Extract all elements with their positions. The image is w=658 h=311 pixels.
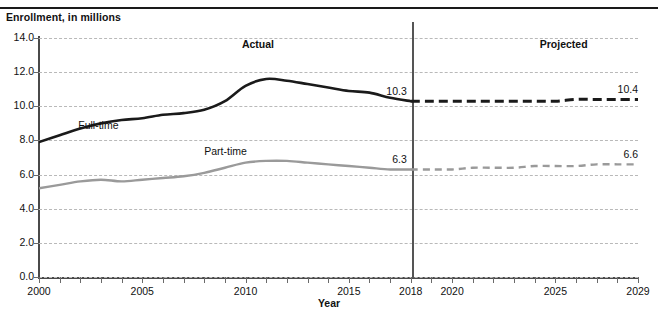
x-axis-tick bbox=[101, 277, 102, 283]
x-axis-title: Year bbox=[0, 297, 658, 309]
line-part-time-projected bbox=[411, 164, 638, 169]
x-axis-tick bbox=[163, 277, 164, 283]
x-axis-tick bbox=[308, 277, 309, 283]
y-axis-tick-label: 2.0 bbox=[19, 236, 34, 248]
gridline bbox=[39, 277, 638, 278]
x-axis-tick bbox=[225, 277, 226, 283]
x-axis-tick-label: 2018 bbox=[399, 285, 422, 297]
x-axis-tick-label: 2029 bbox=[626, 285, 649, 297]
x-axis-tick bbox=[514, 277, 515, 283]
series-label-full-time: Full-time bbox=[78, 119, 118, 131]
x-axis-tick bbox=[390, 277, 391, 283]
series-label-part-time: Part-time bbox=[204, 145, 247, 157]
y-axis-tick-label: 12.0 bbox=[14, 65, 34, 77]
annotation-parttime-2018: 6.3 bbox=[392, 153, 407, 165]
x-axis-tick-label: 2020 bbox=[440, 285, 463, 297]
x-axis-tick bbox=[184, 277, 185, 283]
annotation-fulltime-2018: 10.3 bbox=[386, 85, 406, 97]
y-axis-tick-label: 10.0 bbox=[14, 99, 34, 111]
x-axis-tick bbox=[493, 277, 494, 283]
x-axis-tick bbox=[60, 277, 61, 283]
x-axis-tick bbox=[349, 277, 350, 283]
x-axis-tick bbox=[473, 277, 474, 283]
x-axis-tick bbox=[576, 277, 577, 283]
x-axis-tick-label: 2005 bbox=[131, 285, 154, 297]
y-axis-tick-label: 14.0 bbox=[14, 31, 34, 43]
y-axis-tick-label: 8.0 bbox=[19, 133, 34, 145]
chart-figure: states: Fall 2000 through 2029 Enrollmen… bbox=[0, 0, 658, 311]
x-axis-tick bbox=[142, 277, 143, 283]
x-axis-tick bbox=[369, 277, 370, 283]
x-axis-tick bbox=[122, 277, 123, 283]
x-axis-tick bbox=[39, 277, 40, 283]
x-axis-tick bbox=[535, 277, 536, 283]
x-axis-tick bbox=[328, 277, 329, 283]
x-axis-tick bbox=[246, 277, 247, 283]
x-axis-tick-label: 2015 bbox=[337, 285, 360, 297]
x-axis-tick bbox=[80, 277, 81, 283]
x-axis-tick-label: 2025 bbox=[544, 285, 567, 297]
x-axis-tick bbox=[287, 277, 288, 283]
x-axis-tick bbox=[204, 277, 205, 283]
y-axis-tick-label: 4.0 bbox=[19, 202, 34, 214]
x-axis-tick-label: 2000 bbox=[27, 285, 50, 297]
y-axis-tick-labels: 0.02.04.06.08.010.012.014.0 bbox=[0, 38, 34, 277]
line-full-time-projected bbox=[411, 99, 638, 101]
x-axis-tick bbox=[597, 277, 598, 283]
y-axis-caption: Enrollment, in millions bbox=[6, 11, 121, 23]
x-axis-tick bbox=[431, 277, 432, 283]
x-axis-tick bbox=[452, 277, 453, 283]
annotation-parttime-2029: 6.6 bbox=[623, 148, 638, 160]
series-lines bbox=[39, 38, 638, 277]
figure-title-clipped: states: Fall 2000 through 2029 bbox=[0, 0, 658, 3]
y-axis-tick-label: 0.0 bbox=[19, 270, 34, 282]
x-axis-tick bbox=[617, 277, 618, 283]
x-axis-tick bbox=[638, 277, 639, 283]
y-axis-tick-label: 6.0 bbox=[19, 168, 34, 180]
x-axis-tick bbox=[266, 277, 267, 283]
x-axis-tick-label: 2010 bbox=[234, 285, 257, 297]
x-axis-tick bbox=[555, 277, 556, 283]
line-part-time-actual bbox=[39, 161, 411, 189]
annotation-fulltime-2029: 10.4 bbox=[618, 83, 638, 95]
title-rule bbox=[0, 7, 658, 9]
line-full-time-actual bbox=[39, 79, 411, 142]
